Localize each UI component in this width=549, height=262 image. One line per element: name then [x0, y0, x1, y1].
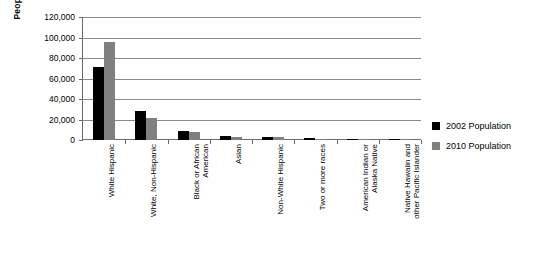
- legend-item-label: 2002 Population: [446, 121, 511, 131]
- bar: [358, 139, 369, 140]
- bar-chart: People 120,000100,00080,00060,00040,0002…: [0, 0, 549, 262]
- legend: 2002 Population 2010 Population: [432, 120, 544, 160]
- x-axis-category-label: Native Hawaiin and other Pacific Islande…: [404, 144, 418, 254]
- y-axis-tick-label: 20,000: [15, 115, 75, 125]
- x-axis-category-label: Asian: [235, 144, 249, 254]
- y-axis-tick: [79, 140, 83, 141]
- bar: [315, 139, 326, 140]
- bar: [104, 42, 115, 140]
- legend-item: 2002 Population: [432, 120, 544, 131]
- x-axis-category-label: White Hispanic: [108, 144, 122, 254]
- bar-group: [294, 17, 336, 140]
- bar: [389, 139, 400, 140]
- bar-group: [168, 17, 210, 140]
- bar: [273, 137, 284, 140]
- x-axis-category-label: Two or more races: [319, 144, 333, 254]
- x-axis-category-label: Black or African American: [193, 144, 207, 254]
- x-axis-category-label: American Indian or Alaska Native: [362, 144, 376, 254]
- bar: [189, 132, 200, 140]
- y-axis-tick-label: 80,000: [15, 53, 75, 63]
- bar-group: [83, 17, 125, 140]
- bar: [178, 131, 189, 140]
- legend-item: 2010 Population: [432, 140, 544, 151]
- bar: [220, 136, 231, 140]
- legend-item-label: 2010 Population: [446, 141, 511, 151]
- y-axis-tick-label: 120,000: [15, 12, 75, 22]
- bar-group: [337, 17, 379, 140]
- legend-swatch-icon: [432, 122, 440, 130]
- bar-group: [210, 17, 252, 140]
- bar: [304, 138, 315, 140]
- bar: [135, 111, 146, 140]
- bar: [146, 118, 157, 140]
- bar: [231, 137, 242, 140]
- bar: [400, 139, 411, 140]
- bar-groups: [83, 17, 421, 140]
- y-axis-tick-label: 0: [15, 135, 75, 145]
- bar-group: [379, 17, 421, 140]
- x-axis-category-label: Non-White Hispanic: [277, 144, 291, 254]
- x-axis-category-labels: White HispanicWhite, Non-HispanicBlack o…: [82, 144, 420, 256]
- legend-swatch-icon: [432, 142, 440, 150]
- plot-area: 120,000100,00080,00060,00040,00020,0000: [82, 17, 421, 140]
- y-axis-tick-label: 100,000: [15, 33, 75, 43]
- y-axis-tick-label: 60,000: [15, 74, 75, 84]
- bar: [93, 67, 104, 140]
- bar-group: [125, 17, 167, 140]
- x-axis-category-label: White, Non-Hispanic: [150, 144, 164, 254]
- bar: [347, 139, 358, 140]
- bar-group: [252, 17, 294, 140]
- bar: [262, 137, 273, 140]
- y-axis-tick-label: 40,000: [15, 94, 75, 104]
